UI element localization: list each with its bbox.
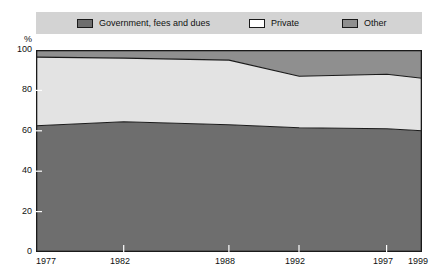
x-tick-1992: 1992 [285, 256, 305, 266]
legend-swatch-private-icon [249, 19, 265, 28]
legend-item-government[interactable]: Government, fees and dues [77, 18, 210, 28]
x-tick-1997: 1997 [373, 256, 393, 266]
legend-swatch-other-icon [342, 19, 358, 28]
legend-item-private[interactable]: Private [249, 18, 299, 28]
y-tick-80: 80 [2, 85, 32, 94]
legend-label-other: Other [364, 18, 387, 28]
stacked-area-chart [36, 50, 422, 252]
area-government [36, 122, 422, 252]
x-tick-1988: 1988 [215, 256, 235, 266]
y-tick-20: 20 [2, 207, 32, 216]
y-tick-60: 60 [2, 126, 32, 135]
y-tick-40: 40 [2, 166, 32, 175]
chart-page: Government, fees and dues Private Other … [0, 0, 438, 280]
y-axis: % 100 80 60 40 20 0 [0, 0, 32, 280]
chart-legend: Government, fees and dues Private Other [36, 12, 422, 34]
legend-swatch-government-icon [77, 19, 93, 28]
y-axis-unit: % [24, 34, 32, 44]
x-tick-1999: 1999 [408, 256, 428, 266]
legend-label-private: Private [271, 18, 299, 28]
x-tick-1977: 1977 [36, 256, 56, 266]
legend-label-government: Government, fees and dues [99, 18, 210, 28]
legend-item-other[interactable]: Other [342, 18, 387, 28]
x-tick-1982: 1982 [110, 256, 130, 266]
y-tick-100: 100 [2, 45, 32, 54]
y-tick-0: 0 [2, 247, 32, 256]
plot-area [36, 50, 422, 252]
